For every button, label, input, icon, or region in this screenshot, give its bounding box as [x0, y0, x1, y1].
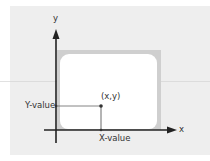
x-axis-arrow-icon: [167, 127, 177, 134]
y-axis-arrow-icon: [53, 29, 60, 39]
y-value-label: Y-value: [25, 101, 55, 110]
x-value-label: X-value: [99, 134, 130, 143]
point-label: (x,y): [101, 92, 120, 101]
x-tick-marker-icon: [100, 129, 103, 132]
point-marker-icon: [99, 104, 103, 108]
x-axis-label: x: [179, 125, 184, 134]
y-axis-label: y: [53, 14, 58, 23]
